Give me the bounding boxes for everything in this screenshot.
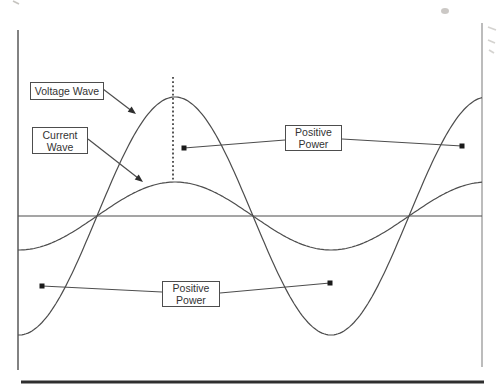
positive-power-top-label-box: Positive Power <box>285 125 342 151</box>
smudge-artifact <box>488 40 495 43</box>
square-marker <box>460 144 465 149</box>
current-wave-label-line1: Current <box>42 129 77 141</box>
callout-connector-line <box>42 286 162 292</box>
square-marker <box>182 146 187 151</box>
callout-connector-line <box>184 140 285 148</box>
positive-power-top-label-line2: Power <box>299 138 329 150</box>
waveform-diagram-page: Voltage Wave Current Wave Positive Power… <box>0 0 499 390</box>
callout-connector-line <box>220 283 330 293</box>
callout-arrow-line <box>88 139 138 178</box>
voltage-wave-label-box: Voltage Wave <box>30 82 104 100</box>
smudge-artifact <box>489 50 494 53</box>
positive-power-bottom-label-line1: Positive <box>173 282 210 294</box>
positive-power-bottom-label-box: Positive Power <box>162 281 220 307</box>
square-marker <box>40 284 45 289</box>
current-wave-label-line2: Wave <box>47 141 73 153</box>
current-wave-label-box: Current Wave <box>32 127 88 154</box>
smudge-artifact <box>13 1 19 4</box>
voltage-wave-label: Voltage Wave <box>35 85 99 97</box>
arrowhead-icon <box>128 107 136 114</box>
square-marker <box>328 281 333 286</box>
waveform-diagram-svg <box>0 0 499 390</box>
positive-power-bottom-label-line2: Power <box>176 294 206 306</box>
positive-power-top-label-line1: Positive <box>295 126 332 138</box>
smudge-artifact <box>488 27 496 30</box>
callout-arrow-line <box>103 89 131 110</box>
smudge-artifact <box>441 8 449 14</box>
